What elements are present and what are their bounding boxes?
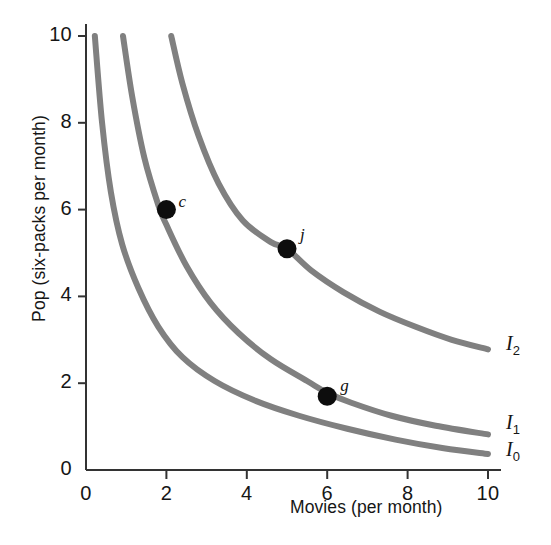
indifference-curve-figure: 02468100246810 Pop (six-packs per month)…	[0, 0, 551, 545]
chart-canvas	[0, 0, 551, 545]
y-axis-title: Pop (six-packs per month)	[29, 94, 50, 344]
curve-label-base: I	[506, 332, 513, 354]
point-g-marker	[318, 387, 337, 406]
point-j-label: j	[300, 225, 305, 245]
curve-I1	[123, 36, 488, 434]
curve-I2	[171, 36, 488, 349]
curve-label-subscript: 1	[513, 422, 520, 437]
curve-label-base: I	[506, 438, 513, 460]
y-tick-label-2: 2	[26, 370, 72, 393]
point-c-marker	[157, 200, 176, 219]
curve-label-I0: I0	[506, 438, 520, 464]
point-g-label: g	[340, 376, 349, 396]
x-axis-title: Movies (per month)	[290, 497, 490, 518]
data-points	[157, 200, 337, 406]
point-c-label: c	[178, 192, 186, 212]
x-tick-label-0: 0	[56, 482, 116, 505]
curve-label-I2: I2	[506, 332, 520, 358]
curve-label-base: I	[506, 411, 513, 433]
curve-label-I1: I1	[506, 411, 520, 437]
y-tick-label-10: 10	[26, 23, 72, 46]
point-j-marker	[278, 239, 297, 258]
curve-label-subscript: 0	[513, 449, 520, 464]
y-tick-label-0: 0	[26, 457, 72, 480]
x-tick-label-2: 2	[136, 482, 196, 505]
curve-label-subscript: 2	[513, 343, 520, 358]
x-tick-label-4: 4	[217, 482, 277, 505]
